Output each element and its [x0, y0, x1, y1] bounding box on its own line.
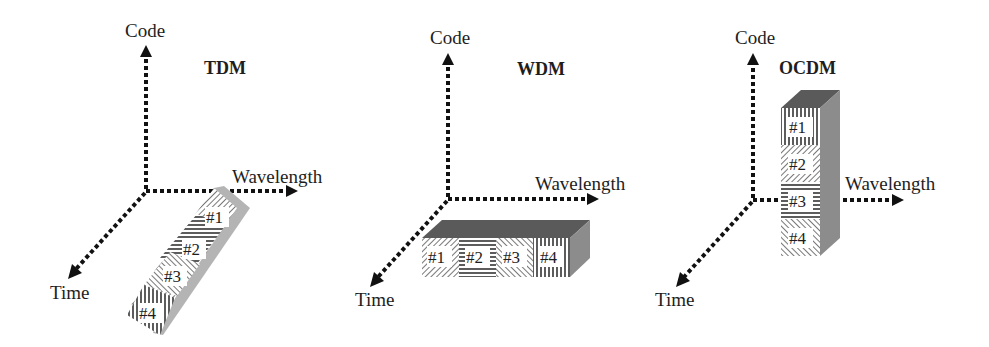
wdm-slot-stack: #1 #2 #3 #4 — [422, 220, 590, 277]
ocdm-slot-stack: #1 #2 #3 #4 — [781, 90, 840, 256]
slot-2-label: #2 — [466, 248, 483, 267]
time-arrowhead-icon — [370, 272, 384, 287]
wdm-panel: Code WDM Wavelength Time #1 #2 #3 #4 — [355, 27, 626, 310]
tdm-slot-stack: #1 #2 #3 #4 — [127, 186, 250, 335]
wavelength-axis-label: Wavelength — [232, 166, 323, 187]
wavelength-arrowhead-icon — [892, 194, 904, 206]
time-axis-label: Time — [655, 289, 694, 310]
slot-3-label: #3 — [164, 267, 181, 286]
code-arrowhead-icon — [140, 45, 152, 57]
code-axis-label: Code — [125, 20, 165, 41]
slot-2-label: #2 — [789, 155, 806, 174]
slot-2-label: #2 — [183, 240, 200, 259]
wavelength-axis-label: Wavelength — [845, 173, 936, 194]
code-axis-label: Code — [735, 27, 775, 48]
multiplexing-diagram: Code TDM Wavelength Time #1 #2 #3 #4 Cod — [0, 0, 989, 347]
panel-title: WDM — [517, 59, 565, 79]
panel-title: TDM — [204, 58, 246, 78]
panel-title: OCDM — [779, 58, 836, 78]
box-side-face — [820, 90, 840, 256]
slot-4-label: #4 — [789, 229, 807, 248]
time-axis — [76, 193, 145, 269]
time-axis — [684, 202, 752, 277]
slot-3-label: #3 — [789, 192, 806, 211]
code-arrowhead-icon — [747, 53, 759, 65]
time-arrowhead-icon — [68, 264, 82, 279]
wavelength-arrowhead-icon — [587, 193, 599, 205]
slot-1-label: #1 — [789, 118, 806, 137]
box-top-face — [422, 220, 590, 238]
time-arrowhead-icon — [676, 272, 690, 287]
slot-4-label: #4 — [540, 248, 558, 267]
tdm-panel: Code TDM Wavelength Time #1 #2 #3 #4 — [50, 20, 323, 335]
slot-1-label: #1 — [206, 208, 223, 227]
code-arrowhead-icon — [442, 53, 454, 65]
slot-3-label: #3 — [503, 248, 520, 267]
time-axis-label: Time — [355, 289, 394, 310]
code-axis-label: Code — [430, 27, 470, 48]
ocdm-panel: Code OCDM Wavelength Time #1 #2 #3 #4 — [655, 27, 936, 310]
slot-4-label: #4 — [139, 304, 157, 323]
slot-1-label: #1 — [428, 248, 445, 267]
wavelength-axis-label: Wavelength — [535, 173, 626, 194]
time-axis-label: Time — [50, 282, 89, 303]
